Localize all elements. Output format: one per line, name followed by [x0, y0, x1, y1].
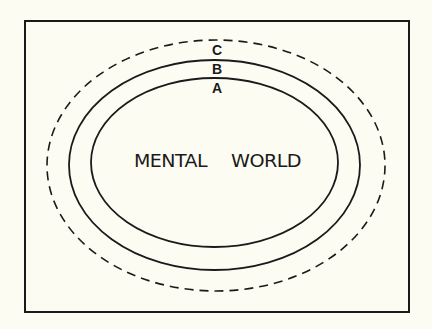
label-c: C	[212, 42, 222, 58]
mental-world-diagram: C B A MENTAL WORLD	[0, 0, 432, 329]
central-label-mental: MENTAL	[134, 151, 208, 171]
label-b: B	[212, 61, 222, 77]
label-a: A	[212, 80, 222, 96]
central-label-world: WORLD	[231, 151, 301, 171]
